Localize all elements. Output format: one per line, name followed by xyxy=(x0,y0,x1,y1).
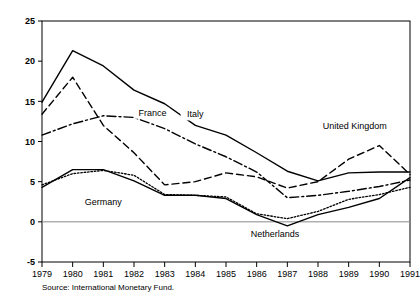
x-axis-tick-label: 1986 xyxy=(247,269,267,279)
x-axis-tick-label: 1983 xyxy=(155,269,175,279)
source-note: Source: International Monetary Fund. xyxy=(42,283,174,292)
series-label-italy: Italy xyxy=(181,109,211,120)
y-axis-tick-label: 25 xyxy=(25,16,35,26)
svg-text:Germany: Germany xyxy=(85,197,123,207)
chart-figure: -505101520251979198019811982198319841985… xyxy=(0,0,420,300)
plot-area: -505101520251979198019811982198319841985… xyxy=(0,0,420,300)
series-line-germany xyxy=(42,170,410,218)
line-chart-canvas: -505101520251979198019811982198319841985… xyxy=(0,0,420,300)
y-axis-tick-label: 5 xyxy=(30,177,35,187)
x-axis-tick-label: 1984 xyxy=(185,269,205,279)
x-axis-tick-label: 1982 xyxy=(124,269,144,279)
y-axis-tick-label: -5 xyxy=(27,257,35,267)
series-label-france: France xyxy=(135,108,170,119)
x-axis-tick-label: 1981 xyxy=(93,269,113,279)
plot-frame xyxy=(42,21,410,262)
y-axis-tick-label: 15 xyxy=(25,97,35,107)
series-label-netherlands: Netherlands xyxy=(245,229,305,240)
y-axis-tick-label: 20 xyxy=(25,56,35,66)
svg-text:Netherlands: Netherlands xyxy=(251,229,300,239)
x-axis-tick-label: 1990 xyxy=(369,269,389,279)
x-axis-tick-label: 1991 xyxy=(400,269,420,279)
x-axis-tick-label: 1979 xyxy=(32,269,52,279)
svg-text:Italy: Italy xyxy=(187,109,204,119)
x-axis-tick-label: 1987 xyxy=(277,269,297,279)
series-label-germany: Germany xyxy=(83,197,123,208)
x-axis-tick-label: 1985 xyxy=(216,269,236,279)
svg-text:United Kingdom: United Kingdom xyxy=(323,121,387,131)
x-axis-tick-label: 1989 xyxy=(339,269,359,279)
x-axis-tick-label: 1980 xyxy=(63,269,83,279)
svg-text:France: France xyxy=(138,108,166,118)
series-label-united-kingdom: United Kingdom xyxy=(317,121,392,132)
x-axis-tick-label: 1988 xyxy=(308,269,328,279)
y-axis-tick-label: 10 xyxy=(25,137,35,147)
y-axis-tick-label: 0 xyxy=(30,217,35,227)
